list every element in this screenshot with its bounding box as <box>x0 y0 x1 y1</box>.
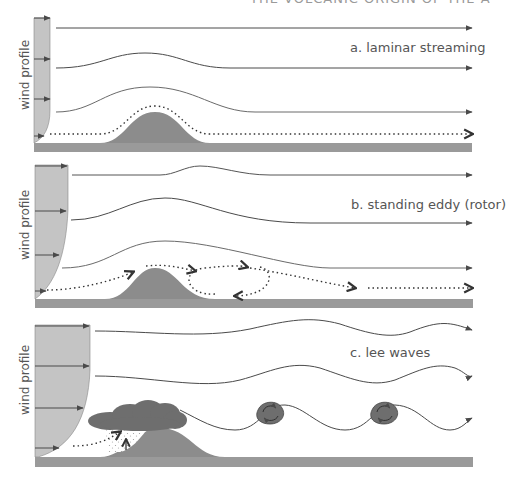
cap-cloud <box>88 400 187 431</box>
hill-b <box>105 268 215 299</box>
wind-profile-b <box>35 165 68 299</box>
ground-a <box>34 143 472 152</box>
rotor-cloud-1 <box>257 402 284 424</box>
lee-wave-streamline <box>95 365 472 383</box>
ground-c <box>35 457 473 467</box>
streamline <box>72 166 472 175</box>
panel-c-axis-label: wind profile <box>18 345 32 415</box>
streamline <box>56 53 472 68</box>
hill-a <box>100 112 210 143</box>
panel-a-label: a. laminar streaming <box>350 40 485 55</box>
rotor-flow-dotted <box>47 272 133 290</box>
wind-profile-a <box>34 18 50 143</box>
panel-a <box>34 18 472 152</box>
rotor-cloud-2 <box>371 402 398 424</box>
header-title-cut: THE VOLCANIC ORIGIN OF THE ATMOSPHERE <box>250 0 490 5</box>
panel-b-axis-label: wind profile <box>18 190 32 260</box>
streamline <box>56 87 472 112</box>
panel-b-label: b. standing eddy (rotor) <box>351 197 506 212</box>
rotor-eddy-dotted <box>235 267 269 296</box>
lee-wave-streamline <box>180 405 472 430</box>
rotor-eddy-dotted <box>189 266 247 294</box>
streamline <box>62 241 472 268</box>
panel-a-axis-label: wind profile <box>18 40 32 110</box>
streamline-dotted <box>50 106 472 134</box>
panel-b <box>35 165 473 308</box>
panel-c-label: c. lee waves <box>350 345 430 360</box>
wind-profile-c <box>35 325 90 457</box>
lee-wave-streamline <box>95 320 472 336</box>
ground-b <box>35 299 473 308</box>
panel-c <box>35 320 473 467</box>
